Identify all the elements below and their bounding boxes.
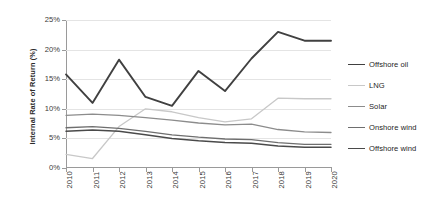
- legend-label: Solar: [369, 102, 387, 111]
- y-tick-label: 0%: [30, 164, 60, 172]
- x-tick-label: 2011: [91, 172, 100, 189]
- legend-item[interactable]: Offshore wind: [348, 138, 436, 159]
- x-tick-label: 2017: [250, 171, 259, 188]
- y-tick-label: 20%: [30, 46, 60, 54]
- legend-item[interactable]: Onshore wind: [348, 117, 436, 138]
- y-tick-mark: [62, 50, 66, 51]
- y-tick-label: 15%: [30, 75, 60, 83]
- series-line: [66, 98, 331, 158]
- y-axis-tick-labels: 0%5%10%15%20%25%: [28, 0, 60, 216]
- y-tick-mark: [62, 109, 66, 110]
- legend-item[interactable]: LNG: [348, 75, 436, 96]
- x-tick-label: 2018: [277, 171, 286, 188]
- y-tick-label: 25%: [30, 16, 60, 24]
- y-tick-mark: [62, 168, 66, 169]
- y-tick-mark: [62, 138, 66, 139]
- legend-swatch-icon: [348, 85, 365, 86]
- legend-label: LNG: [369, 81, 385, 90]
- legend-label: Onshore wind: [369, 123, 416, 132]
- legend-swatch-icon: [348, 64, 365, 65]
- legend-item[interactable]: Offshore oil: [348, 54, 436, 75]
- x-tick-label: 2012: [118, 171, 127, 188]
- x-tick-label: 2015: [197, 171, 206, 188]
- series-line: [66, 114, 331, 132]
- series-line: [66, 130, 331, 147]
- y-tick-label: 5%: [30, 134, 60, 142]
- x-tick-label: 2014: [171, 171, 180, 188]
- x-tick-label: 2019: [303, 171, 312, 188]
- x-tick-label: 2020: [330, 171, 339, 188]
- legend-swatch-icon: [348, 106, 365, 107]
- series-container: [66, 20, 331, 168]
- y-tick-mark: [62, 79, 66, 80]
- x-axis-tick-labels: 2010201120122013201420152016201720182019…: [66, 172, 332, 216]
- y-tick-label: 10%: [30, 105, 60, 113]
- line-chart: Internal Rate of Return (%) 0%5%10%15%20…: [0, 0, 436, 216]
- x-tick-label: 2010: [65, 171, 74, 188]
- legend-item[interactable]: Solar: [348, 96, 436, 117]
- y-tick-mark: [62, 20, 66, 21]
- chart-legend: Offshore oilLNGSolarOnshore windOffshore…: [348, 54, 436, 159]
- legend-swatch-icon: [348, 127, 365, 128]
- plot-area: [66, 20, 331, 168]
- legend-label: Offshore oil: [369, 60, 408, 69]
- x-tick-label: 2013: [144, 171, 153, 188]
- series-line: [66, 32, 331, 106]
- legend-label: Offshore wind: [369, 144, 416, 153]
- x-tick-label: 2016: [224, 171, 233, 188]
- legend-swatch-icon: [348, 148, 365, 149]
